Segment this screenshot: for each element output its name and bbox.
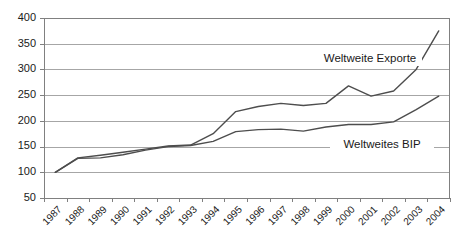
y-axis-label-200: 200 xyxy=(18,114,36,126)
y-axis-label-50: 50 xyxy=(24,191,36,203)
line-chart: 50100150200250300350400 1987198819891990… xyxy=(0,0,464,247)
y-axis-label-250: 250 xyxy=(18,88,36,100)
series-annotation-exports: Weltweite Exporte xyxy=(324,52,416,64)
y-axis-label-300: 300 xyxy=(18,62,36,74)
y-axis-label-100: 100 xyxy=(18,165,36,177)
chart-container: 50100150200250300350400 1987198819891990… xyxy=(0,0,464,247)
y-axis-label-400: 400 xyxy=(18,11,36,23)
series-annotation-gdp: Weltweites BIP xyxy=(343,138,420,150)
y-axis-label-150: 150 xyxy=(18,139,36,151)
y-axis-label-350: 350 xyxy=(18,37,36,49)
